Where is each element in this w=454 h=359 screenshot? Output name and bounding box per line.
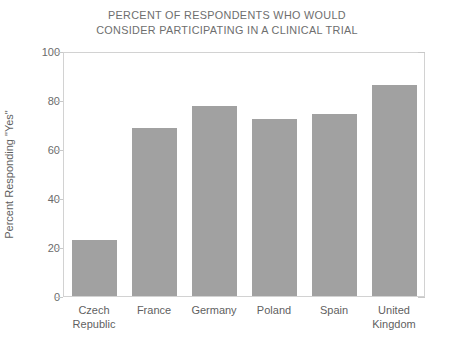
x-label-france-line-1: France [124, 303, 184, 317]
x-label-czech-republic-line-2: Republic [64, 317, 124, 331]
bar-slot-poland [244, 53, 304, 296]
x-axis-labels: Czech Republic France Germany Poland Spa… [64, 303, 424, 331]
bar-slot-united-kingdom [364, 53, 424, 296]
bar-spain[interactable] [312, 114, 357, 296]
y-tick-mark-80 [56, 101, 63, 102]
y-tick-mark-0 [56, 297, 63, 298]
bar-series [64, 53, 424, 296]
x-label-united-kingdom-line-2: Kingdom [364, 317, 424, 331]
x-label-spain: Spain [304, 303, 364, 331]
bar-united-kingdom[interactable] [372, 85, 417, 296]
x-label-czech-republic: Czech Republic [64, 303, 124, 331]
chart-title: PERCENT OF RESPONDENTS WHO WOULD CONSIDE… [14, 8, 441, 38]
bar-slot-czech-republic [64, 53, 124, 296]
y-tick-mark-100 [56, 52, 63, 53]
x-label-france: France [124, 303, 184, 331]
bar-poland[interactable] [252, 119, 297, 296]
y-tick-mark-right-0 [418, 297, 425, 298]
bar-france[interactable] [132, 128, 177, 296]
chart-title-line-2: CONSIDER PARTICIPATING IN A CLINICAL TRI… [14, 23, 441, 38]
x-label-united-kingdom-line-1: United [364, 303, 424, 317]
x-label-germany-line-1: Germany [184, 303, 244, 317]
x-label-spain-line-1: Spain [304, 303, 364, 317]
x-label-czech-republic-line-1: Czech [64, 303, 124, 317]
y-tick-mark-40 [56, 199, 63, 200]
y-tick-mark-20 [56, 248, 63, 249]
x-label-poland: Poland [244, 303, 304, 331]
bar-slot-spain [304, 53, 364, 296]
chart-title-line-1: PERCENT OF RESPONDENTS WHO WOULD [14, 8, 441, 23]
y-tick-mark-60 [56, 150, 63, 151]
bar-chart-figure: PERCENT OF RESPONDENTS WHO WOULD CONSIDE… [0, 0, 454, 359]
bar-slot-france [124, 53, 184, 296]
bar-czech-republic[interactable] [72, 240, 117, 296]
x-label-poland-line-1: Poland [244, 303, 304, 317]
y-axis-title: Percent Responding "Yes" [0, 52, 18, 297]
x-label-germany: Germany [184, 303, 244, 331]
bar-germany[interactable] [192, 106, 237, 296]
bar-slot-germany [184, 53, 244, 296]
x-label-united-kingdom: United Kingdom [364, 303, 424, 331]
